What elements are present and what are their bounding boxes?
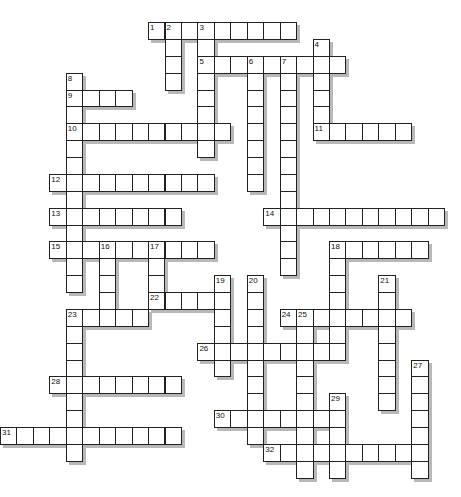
crossword-cell[interactable] <box>115 427 132 445</box>
crossword-cell[interactable] <box>197 140 214 158</box>
crossword-cell[interactable] <box>197 123 214 141</box>
crossword-cell[interactable] <box>165 241 182 259</box>
crossword-cell[interactable] <box>280 410 297 428</box>
crossword-cell[interactable] <box>329 461 346 479</box>
crossword-cell[interactable] <box>132 208 149 226</box>
crossword-cell[interactable] <box>247 157 264 175</box>
crossword-cell[interactable] <box>378 208 395 226</box>
crossword-cell[interactable] <box>411 461 428 479</box>
crossword-cell[interactable] <box>345 309 362 327</box>
crossword-cell[interactable] <box>345 241 362 259</box>
crossword-cell[interactable] <box>411 208 428 226</box>
crossword-cell[interactable] <box>214 56 231 74</box>
crossword-cell[interactable] <box>66 174 83 192</box>
crossword-cell[interactable] <box>280 225 297 243</box>
crossword-cell[interactable] <box>329 208 346 226</box>
crossword-cell[interactable] <box>148 427 165 445</box>
crossword-cell[interactable] <box>115 174 132 192</box>
crossword-cell[interactable] <box>115 208 132 226</box>
crossword-cell[interactable] <box>197 39 214 57</box>
crossword-cell[interactable]: 2 <box>165 22 182 40</box>
crossword-cell[interactable] <box>280 157 297 175</box>
crossword-cell[interactable] <box>378 292 395 310</box>
crossword-cell[interactable] <box>313 410 330 428</box>
crossword-cell[interactable] <box>411 444 428 462</box>
crossword-cell[interactable] <box>99 208 116 226</box>
crossword-cell[interactable] <box>99 174 116 192</box>
crossword-cell[interactable] <box>329 258 346 276</box>
crossword-cell[interactable] <box>329 326 346 344</box>
crossword-cell[interactable] <box>296 360 313 378</box>
crossword-cell[interactable] <box>165 174 182 192</box>
crossword-cell[interactable]: 7 <box>280 56 297 74</box>
crossword-cell[interactable] <box>263 56 280 74</box>
crossword-cell[interactable] <box>115 376 132 394</box>
crossword-cell[interactable] <box>66 157 83 175</box>
crossword-cell[interactable] <box>296 208 313 226</box>
crossword-cell[interactable] <box>99 309 116 327</box>
crossword-cell[interactable] <box>197 292 214 310</box>
crossword-cell[interactable]: 12 <box>49 174 66 192</box>
crossword-cell[interactable] <box>378 393 395 411</box>
crossword-cell[interactable] <box>148 275 165 293</box>
crossword-cell[interactable] <box>263 343 280 361</box>
crossword-cell[interactable] <box>82 427 99 445</box>
crossword-cell[interactable] <box>82 123 99 141</box>
crossword-cell[interactable] <box>66 241 83 259</box>
crossword-cell[interactable] <box>329 309 346 327</box>
crossword-cell[interactable] <box>115 309 132 327</box>
crossword-cell[interactable] <box>181 292 198 310</box>
crossword-cell[interactable] <box>197 106 214 124</box>
crossword-cell[interactable] <box>66 191 83 209</box>
crossword-cell[interactable] <box>263 22 280 40</box>
crossword-cell[interactable] <box>115 90 132 108</box>
crossword-cell[interactable]: 26 <box>197 343 214 361</box>
crossword-cell[interactable] <box>247 343 264 361</box>
crossword-cell[interactable]: 19 <box>214 275 231 293</box>
crossword-cell[interactable]: 18 <box>329 241 346 259</box>
crossword-cell[interactable] <box>296 376 313 394</box>
crossword-cell[interactable]: 27 <box>411 360 428 378</box>
crossword-cell[interactable] <box>378 343 395 361</box>
crossword-cell[interactable]: 1 <box>148 22 165 40</box>
crossword-cell[interactable] <box>82 309 99 327</box>
crossword-cell[interactable] <box>280 258 297 276</box>
crossword-cell[interactable] <box>378 241 395 259</box>
crossword-cell[interactable] <box>247 360 264 378</box>
crossword-cell[interactable] <box>132 427 149 445</box>
crossword-cell[interactable]: 11 <box>313 123 330 141</box>
crossword-cell[interactable] <box>395 444 412 462</box>
crossword-cell[interactable] <box>362 241 379 259</box>
crossword-cell[interactable] <box>214 360 231 378</box>
crossword-cell[interactable] <box>132 309 149 327</box>
crossword-cell[interactable] <box>49 427 66 445</box>
crossword-cell[interactable] <box>247 73 264 91</box>
crossword-cell[interactable] <box>313 56 330 74</box>
crossword-cell[interactable] <box>247 90 264 108</box>
crossword-cell[interactable] <box>280 73 297 91</box>
crossword-cell[interactable] <box>115 123 132 141</box>
crossword-cell[interactable] <box>214 343 231 361</box>
crossword-cell[interactable] <box>395 241 412 259</box>
crossword-cell[interactable] <box>280 140 297 158</box>
crossword-cell[interactable] <box>66 326 83 344</box>
crossword-cell[interactable] <box>82 90 99 108</box>
crossword-cell[interactable] <box>66 106 83 124</box>
crossword-cell[interactable] <box>165 376 182 394</box>
crossword-cell[interactable] <box>66 410 83 428</box>
crossword-cell[interactable] <box>296 343 313 361</box>
crossword-cell[interactable] <box>411 393 428 411</box>
crossword-cell[interactable] <box>362 123 379 141</box>
crossword-cell[interactable] <box>329 427 346 445</box>
crossword-cell[interactable] <box>313 106 330 124</box>
crossword-cell[interactable] <box>99 292 116 310</box>
crossword-cell[interactable] <box>230 343 247 361</box>
crossword-cell[interactable]: 17 <box>148 241 165 259</box>
crossword-cell[interactable] <box>214 22 231 40</box>
crossword-cell[interactable]: 9 <box>66 90 83 108</box>
crossword-cell[interactable]: 20 <box>247 275 264 293</box>
crossword-cell[interactable] <box>329 56 346 74</box>
crossword-cell[interactable] <box>99 123 116 141</box>
crossword-cell[interactable]: 25 <box>296 309 313 327</box>
crossword-cell[interactable] <box>230 22 247 40</box>
